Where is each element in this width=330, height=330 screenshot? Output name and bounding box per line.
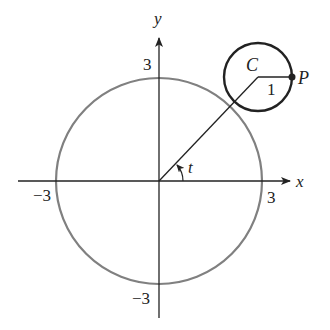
radius-line-origin-to-c: [159, 77, 258, 181]
angle-t-label: t: [188, 158, 194, 177]
y-pos-tick-label: 3: [143, 55, 152, 74]
x-pos-tick-label: 3: [267, 188, 276, 207]
x-axis-label: x: [295, 172, 304, 191]
diagram-canvas: y x 3 −3 −3 3 C P 1 t: [0, 0, 330, 330]
diagram-svg: y x 3 −3 −3 3 C P 1 t: [0, 0, 330, 330]
angle-arc-icon: [177, 165, 183, 181]
y-axis-label: y: [152, 9, 162, 28]
radius-one-label: 1: [267, 80, 276, 99]
point-p-label: P: [297, 68, 309, 88]
center-c-label: C: [246, 55, 259, 75]
point-p-dot: [289, 74, 296, 81]
y-neg-tick-label: −3: [132, 289, 150, 308]
x-neg-tick-label: −3: [33, 186, 51, 205]
